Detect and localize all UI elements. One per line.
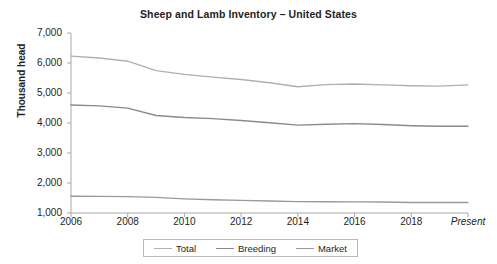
legend-swatch-icon — [296, 248, 314, 249]
legend-swatch-icon — [154, 248, 172, 249]
series-line-total — [71, 56, 468, 87]
chart-legend: TotalBreedingMarket — [143, 239, 358, 257]
legend-item-breeding[interactable]: Breeding — [216, 243, 276, 254]
series-line-breeding — [71, 105, 468, 126]
legend-item-total[interactable]: Total — [154, 243, 196, 254]
legend-label: Market — [318, 243, 347, 254]
plot-area — [0, 0, 497, 264]
legend-swatch-icon — [216, 248, 234, 249]
legend-label: Total — [176, 243, 196, 254]
chart-container: Sheep and Lamb Inventory – United States… — [0, 0, 497, 264]
legend-item-market[interactable]: Market — [296, 243, 347, 254]
legend-label: Breeding — [238, 243, 276, 254]
series-line-market — [71, 196, 468, 202]
